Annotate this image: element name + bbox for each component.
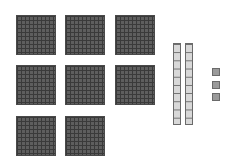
- hundreds-flat-6: [115, 65, 155, 105]
- tens-rod-2: [185, 43, 193, 125]
- hundreds-flat-7: [16, 116, 56, 156]
- hundreds-flat-3: [115, 15, 155, 55]
- tens-rod-1: [173, 43, 181, 125]
- hundreds-flat-5: [65, 65, 105, 105]
- ones-unit-2: [212, 81, 220, 89]
- hundreds-flat-4: [16, 65, 56, 105]
- ones-unit-3: [212, 93, 220, 101]
- hundreds-flat-2: [65, 15, 105, 55]
- ones-unit-1: [212, 68, 220, 76]
- hundreds-flat-1: [16, 15, 56, 55]
- hundreds-flat-8: [65, 116, 105, 156]
